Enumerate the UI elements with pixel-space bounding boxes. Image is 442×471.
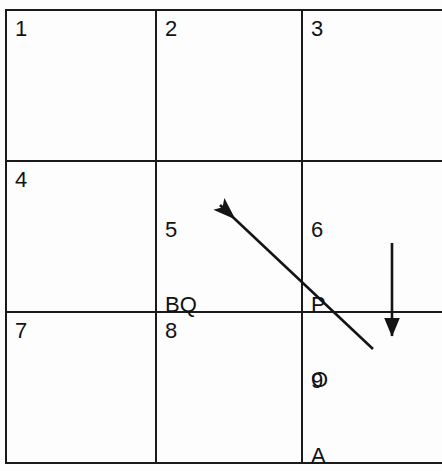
table-row: 4 5 BQ 6 P O [6,161,442,312]
grid-cell-4[interactable]: 4 [6,161,156,312]
cell-4-content: 4 [15,167,27,192]
cell-1-content: 1 [15,16,27,41]
cell-number: 2 [165,16,177,41]
cell-number: 1 [15,16,27,41]
cell-number: 9 [311,368,387,393]
grid-cell-1[interactable]: 1 [6,10,156,161]
grid-cell-3[interactable]: 3 [302,10,442,161]
grid-cell-8[interactable]: 8 [156,312,302,463]
table-row: 1 2 3 [6,10,442,161]
scanned-grid-diagram: 1 2 3 4 5 BQ [0,0,442,471]
cell-8-content: 8 [165,318,177,343]
grid-table: 1 2 3 4 5 BQ [5,9,442,464]
cell-number: 6 [311,217,387,242]
cell-number: 7 [15,318,27,343]
cell-9-content: 9 A B [311,318,387,471]
cell-number: 5 [165,217,241,242]
grid-cell-2[interactable]: 2 [156,10,302,161]
cell-2-content: 2 [165,16,177,41]
cell-number: 4 [15,167,27,192]
table-row: 7 8 9 A B [6,312,442,463]
grid-cell-7[interactable]: 7 [6,312,156,463]
cell-number: 3 [311,16,323,41]
cell-label-a: A [311,443,387,468]
grid-cell-9[interactable]: 9 A B [302,312,442,463]
grid-cell-6[interactable]: 6 P O [302,161,442,312]
grid-cell-5[interactable]: 5 BQ [156,161,302,312]
cell-7-content: 7 [15,318,27,343]
cell-3-content: 3 [311,16,323,41]
cell-number: 8 [165,318,177,343]
